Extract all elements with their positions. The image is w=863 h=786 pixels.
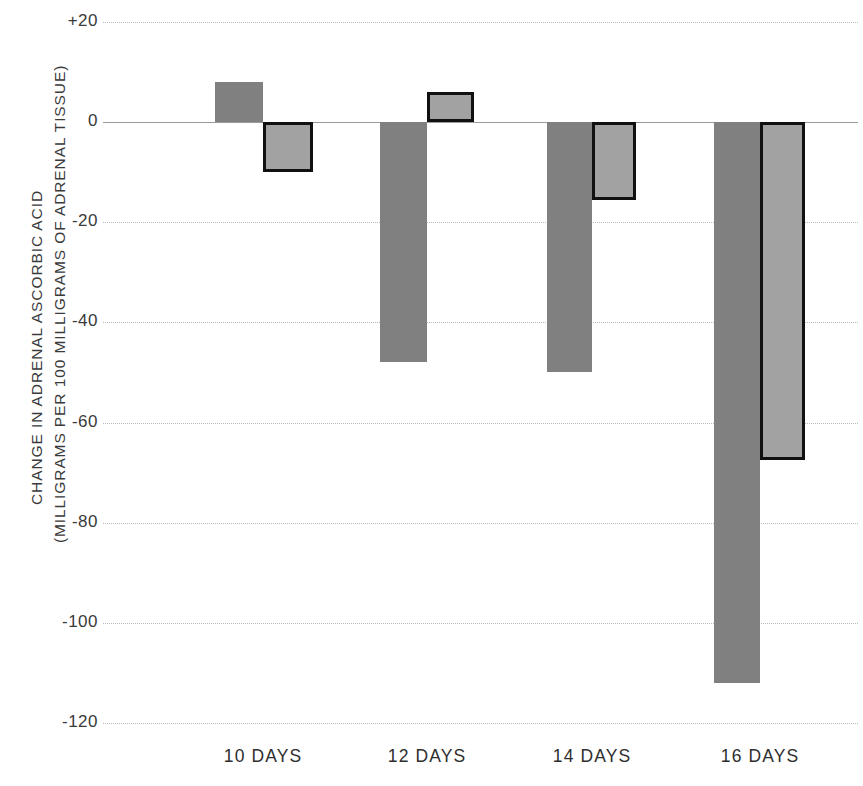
bar-14-days-series-2 bbox=[592, 122, 636, 200]
plot-area bbox=[103, 0, 858, 760]
x-axis-label-16-days: 16 DAYS bbox=[690, 746, 830, 767]
x-axis-label-14-days: 14 DAYS bbox=[522, 746, 662, 767]
gridline-20 bbox=[103, 22, 858, 23]
y-tick-label: 0 bbox=[28, 111, 98, 131]
y-tick-label: -80 bbox=[28, 512, 98, 532]
x-axis-label-12-days: 12 DAYS bbox=[357, 746, 497, 767]
bar-16-days-series-2 bbox=[760, 122, 805, 460]
bar-14-days-series-1 bbox=[547, 122, 592, 372]
bar-16-days-series-1 bbox=[714, 122, 760, 683]
y-axis-ticks: +200-20-40-60-80-100-120 bbox=[20, 0, 98, 760]
x-axis-labels: 10 DAYS12 DAYS14 DAYS16 DAYS bbox=[103, 746, 858, 776]
chart-figure: CHANGE IN ADRENAL ASCORBIC ACID (MILLIGR… bbox=[0, 0, 863, 786]
bar-12-days-series-2 bbox=[427, 92, 474, 122]
x-axis-label-10-days: 10 DAYS bbox=[193, 746, 333, 767]
y-tick-label: -40 bbox=[28, 311, 98, 331]
y-tick-label: -20 bbox=[28, 211, 98, 231]
gridline--120 bbox=[103, 723, 858, 724]
y-tick-label: -120 bbox=[28, 712, 98, 732]
y-tick-label: +20 bbox=[28, 11, 98, 31]
y-tick-label: -100 bbox=[28, 612, 98, 632]
y-tick-label: -60 bbox=[28, 412, 98, 432]
bar-12-days-series-1 bbox=[380, 122, 427, 362]
bar-10-days-series-1 bbox=[215, 82, 263, 122]
bar-10-days-series-2 bbox=[263, 122, 313, 172]
